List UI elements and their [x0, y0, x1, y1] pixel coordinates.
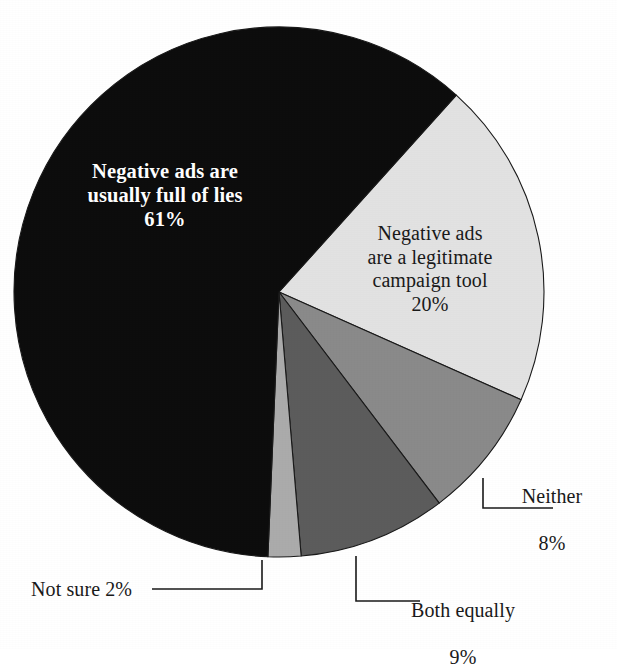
slice-label-both-equally-text: Both equally: [383, 599, 543, 623]
slice-label-legitimate-tool: Negative ads are a legitimate campaign t…: [330, 222, 530, 316]
slice-label-both-equally: Both equally 9%: [383, 575, 543, 668]
slice-label-neither-value: 8%: [492, 532, 612, 556]
slice-label-neither: Neither 8%: [492, 461, 612, 579]
slice-label-full-of-lies: Negative ads are usually full of lies 61…: [50, 159, 280, 232]
slice-label-not-sure: Not sure 2%: [31, 578, 221, 602]
slice-label-neither-text: Neither: [492, 485, 612, 509]
slice-label-both-equally-value: 9%: [383, 646, 543, 668]
